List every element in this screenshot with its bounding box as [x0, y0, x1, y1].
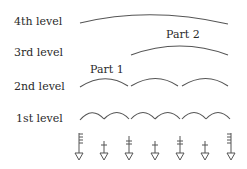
- single-cross-icon: [201, 141, 209, 160]
- double-cross-icon: [176, 136, 184, 160]
- flag-right-icon: [227, 133, 235, 160]
- flag-left-icon: [75, 133, 83, 160]
- arc-level-2-a: [80, 79, 128, 87]
- arc-level-4: [80, 15, 228, 24]
- arc-level-2-c: [182, 79, 228, 87]
- hierarchy-diagram: 4th level 3rd level 2nd level 1st level …: [0, 0, 247, 169]
- single-cross-icon: [151, 141, 159, 160]
- arc-level-3-part-2: [131, 46, 228, 55]
- arc-level-1-f: [206, 113, 230, 120]
- arc-level-1-b: [104, 113, 129, 120]
- arc-level-1-e: [182, 113, 206, 120]
- single-cross-icon: [100, 141, 108, 160]
- arcs-and-symbols: [0, 0, 247, 169]
- arc-level-1-c: [131, 113, 155, 120]
- arc-level-1-d: [155, 113, 180, 120]
- double-cross-icon: [125, 136, 133, 160]
- arc-level-1-a: [80, 113, 104, 120]
- arc-level-2-b: [131, 79, 178, 87]
